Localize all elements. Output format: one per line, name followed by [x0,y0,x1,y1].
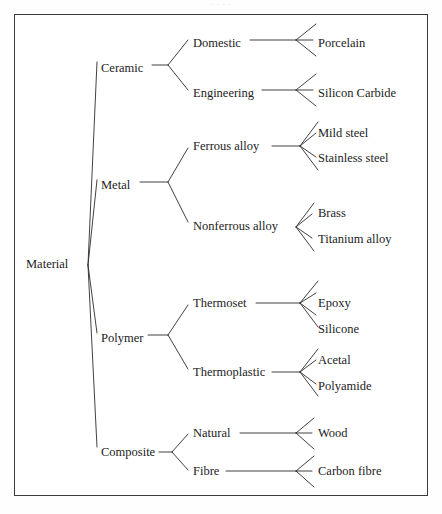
node-natural: Natural [193,427,230,440]
node-thermoplastic: Thermoplastic [193,366,265,379]
edge-polymer-thermoplastic [168,335,188,369]
stub-thermoset-epoxy [300,293,316,303]
stub-domestic-bottom [296,40,316,56]
node-mild-steel: Mild steel [318,127,368,140]
edge-composite-natural [172,434,188,452]
node-ferrous-alloy: Ferrous alloy [193,140,259,153]
node-carbon-fibre: Carbon fibre [318,465,382,478]
node-fibre: Fibre [193,465,219,478]
edge-ceramic-domestic [168,40,188,65]
node-epoxy: Epoxy [318,297,351,310]
stub-engineering-top [296,74,316,90]
node-stainless-steel: Stainless steel [318,152,388,165]
stub-fibre-bottom [296,471,314,487]
node-acetal: Acetal [318,354,351,367]
stub-engineering-bottom [296,90,316,106]
node-thermoset: Thermoset [193,297,246,310]
edge-material-composite [88,265,97,447]
stub-fibre-top [296,456,314,471]
node-silicone: Silicone [318,323,359,336]
stub-ferrous-bottom [300,146,318,170]
node-silicon-carbide: Silicon Carbide [318,87,396,100]
node-polyamide: Polyamide [318,380,371,393]
edge-material-ceramic [88,62,97,265]
node-nonferrous-alloy: Nonferrous alloy [193,220,278,233]
edge-ceramic-engineering [168,65,188,90]
node-wood: Wood [318,427,348,440]
edge-metal-ferrous [168,148,188,182]
node-polymer: Polymer [101,332,143,345]
edge-polymer-thermoset [168,305,188,335]
node-composite: Composite [101,446,155,459]
diagram-page: . . . . [0,0,442,514]
node-titanium-alloy: Titanium alloy [318,233,392,246]
node-porcelain: Porcelain [318,37,365,50]
node-metal: Metal [101,179,130,192]
node-brass: Brass [318,207,346,220]
stub-natural-top [296,418,314,433]
edge-composite-fibre [172,452,188,470]
stub-thermoset-top [300,281,318,303]
stub-nonferrous-titanium [296,227,312,238]
node-domestic: Domestic [193,37,241,50]
edge-material-metal [88,180,97,265]
stub-nonferrous-bottom [296,227,314,251]
edge-metal-nonferrous [168,182,188,222]
node-engineering: Engineering [193,87,254,100]
node-material: Material [26,258,68,271]
stub-natural-bottom [296,433,314,449]
stub-ferrous-stainless [300,146,316,157]
stub-domestic-top [296,24,316,40]
node-ceramic: Ceramic [101,62,143,75]
